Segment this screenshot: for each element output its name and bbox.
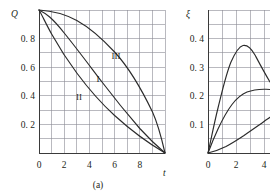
y-ticklabel-b-2: 0. 2 — [190, 91, 205, 101]
x-ticklabel-1: 2 — [62, 160, 67, 170]
x-axis-title: t — [163, 168, 166, 178]
x-ticklabel-3: 6 — [112, 160, 117, 170]
y-ticklabel-b-1: 0. 3 — [190, 63, 205, 73]
y-axis-title: Q — [11, 9, 18, 19]
x-ticklabel-2: 4 — [87, 160, 92, 170]
figure-root: 0. 8 0. 6 0. 4 0. 2 0 2 4 6 8 Q t III I … — [0, 0, 270, 191]
chart-panel-xi: 0. 4 0. 3 0. 2 0. 1 0 2 4 ξ — [178, 0, 270, 191]
y-ticklabel-1: 0. 6 — [21, 63, 36, 73]
y-ticklabel-2: 0. 4 — [21, 91, 36, 101]
y-ticklabel-b-3: 0. 1 — [190, 120, 205, 130]
panel-a-svg: 0. 8 0. 6 0. 4 0. 2 0 2 4 6 8 Q t III I … — [0, 0, 178, 191]
y-axis-title-b: ξ — [186, 9, 191, 20]
x-ticklabel-b-2: 4 — [262, 160, 267, 170]
x-ticklabel-b-0: 0 — [206, 160, 211, 170]
curve-lower — [208, 117, 270, 153]
x-ticklabel-0: 0 — [37, 160, 42, 170]
y-ticklabel-0: 0. 8 — [21, 34, 36, 44]
x-ticklabel-4: 8 — [137, 160, 142, 170]
figure-caption: (a) — [93, 180, 104, 191]
curve-label-I: I — [97, 74, 100, 84]
curve-label-III: III — [112, 51, 121, 61]
curve-upper — [208, 45, 270, 153]
chart-panel-q-vs-t: 0. 8 0. 6 0. 4 0. 2 0 2 4 6 8 Q t III I … — [0, 0, 178, 191]
y-ticklabel-b-0: 0. 4 — [190, 34, 205, 44]
y-ticklabel-3: 0. 2 — [21, 120, 36, 130]
curve-label-II: II — [76, 92, 82, 102]
curve-middle — [208, 89, 270, 153]
panel-b-svg: 0. 4 0. 3 0. 2 0. 1 0 2 4 ξ — [178, 0, 270, 191]
x-ticklabel-b-1: 2 — [234, 160, 239, 170]
